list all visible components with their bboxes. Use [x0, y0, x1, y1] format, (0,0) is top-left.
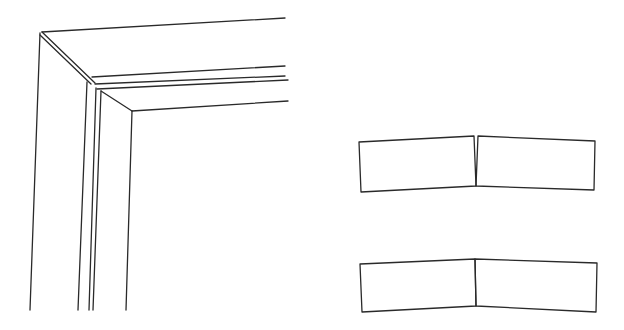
line-miter-a — [42, 32, 95, 83]
closed-miter-joint-drawing — [360, 259, 597, 312]
line-rail-3 — [97, 80, 288, 89]
line-rail-1 — [92, 66, 285, 77]
line-inner-left — [126, 111, 132, 310]
diagram-canvas — [0, 0, 624, 330]
open-miter-joint-drawing — [359, 136, 595, 192]
line-outer-left — [30, 33, 40, 310]
line-miter-b — [40, 35, 91, 84]
line-outer-top — [42, 18, 285, 32]
line-stile-3 — [93, 91, 101, 310]
closed-joint-right-block — [475, 259, 597, 312]
open-joint-left-block — [359, 136, 476, 192]
frame-corner-drawing — [30, 18, 288, 310]
line-inner-miter — [101, 91, 132, 111]
line-stile-2 — [89, 88, 96, 310]
line-stile-1 — [78, 82, 87, 310]
closed-joint-left-block — [360, 259, 476, 312]
open-joint-right-block — [476, 136, 595, 190]
line-inner-top — [132, 101, 288, 111]
line-rail-2 — [95, 76, 285, 84]
